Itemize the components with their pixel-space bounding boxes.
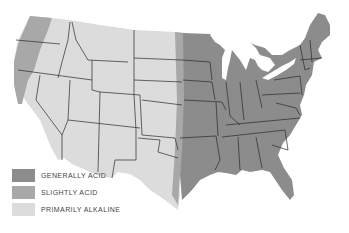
generally-acid-swatch bbox=[12, 169, 35, 182]
legend-label: SLIGHTLY ACID bbox=[41, 189, 98, 196]
legend-item-primarily-alkaline: PRIMARILY ALKALINE bbox=[12, 201, 120, 217]
legend-label: GENERALLY ACID bbox=[41, 172, 106, 179]
map-legend: GENERALLY ACID SLIGHTLY ACID PRIMARILY A… bbox=[12, 167, 120, 218]
primarily-alkaline-swatch bbox=[12, 203, 35, 216]
slightly-acid-swatch bbox=[12, 186, 35, 199]
legend-label: PRIMARILY ALKALINE bbox=[41, 206, 120, 213]
region-generally-acid bbox=[180, 13, 330, 200]
legend-item-slightly-acid: SLIGHTLY ACID bbox=[12, 184, 120, 200]
legend-item-generally-acid: GENERALLY ACID bbox=[12, 167, 120, 183]
